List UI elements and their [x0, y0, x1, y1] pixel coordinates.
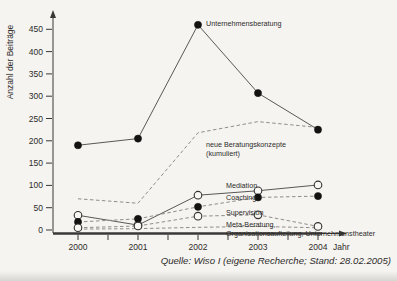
- y-axis-tick-label: 150: [29, 158, 43, 168]
- series-label-unternehmensberatung: Unternehmensberatung: [206, 19, 282, 28]
- series-label-meta-beratung-organisationsaufteilung-unternehmenstheater: Organisationsaufteilung, Unternehmensthe…: [226, 229, 376, 238]
- series-label-mediation: Mediation: [226, 181, 257, 190]
- x-axis-tick-label: 2000: [69, 242, 88, 252]
- data-point-coaching: [134, 215, 141, 222]
- y-axis-tick-label: 50: [34, 203, 44, 213]
- scanned-chart-page: 0501001502002503003504004502000200120022…: [0, 0, 397, 281]
- data-point-unternehmensberatung: [74, 142, 81, 149]
- data-point-unternehmensberatung: [254, 89, 261, 96]
- x-axis-tick-label: 2002: [189, 242, 208, 252]
- data-point-supervision: [134, 222, 142, 230]
- series-line-unternehmensberatung: [78, 25, 318, 145]
- data-point-coaching: [194, 203, 201, 210]
- source-caption: Quelle: Wiso I (eigene Recherche; Stand:…: [161, 255, 391, 266]
- y-axis-arrow: [50, 10, 56, 18]
- line-chart: 0501001502002503003504004502000200120022…: [0, 0, 397, 281]
- y-axis-tick-label: 200: [29, 136, 43, 146]
- data-point-unternehmensberatung: [194, 21, 201, 28]
- data-point-mediation: [314, 181, 322, 189]
- x-axis-tick-label: 2004: [309, 242, 328, 252]
- data-point-supervision: [74, 224, 82, 232]
- x-axis-tick-label: 2001: [129, 242, 148, 252]
- data-point-coaching: [314, 193, 321, 200]
- x-axis-title: Jahr: [333, 242, 350, 252]
- y-axis-tick-label: 300: [29, 91, 43, 101]
- series-label-supervision: Supervision: [226, 208, 264, 217]
- data-point-supervision: [194, 212, 202, 220]
- y-axis-tick-label: 400: [29, 47, 43, 57]
- y-axis-tick-label: 250: [29, 114, 43, 124]
- x-axis-tick-label: 2003: [249, 242, 268, 252]
- y-axis-title: Anzahl der Beiträge: [5, 24, 15, 99]
- y-axis-tick-label: 100: [29, 180, 43, 190]
- series-label-coaching: Coaching: [226, 193, 256, 202]
- data-point-unternehmensberatung: [134, 135, 141, 142]
- data-point-mediation: [74, 211, 82, 219]
- series-label-neue-beratungskonzepte-kumuliert: (kumuliert): [206, 149, 240, 158]
- chart-svg: 0501001502002503003504004502000200120022…: [0, 0, 397, 281]
- data-point-unternehmensberatung: [314, 126, 321, 133]
- y-axis-tick-label: 350: [29, 69, 43, 79]
- y-axis-tick-label: 0: [38, 225, 43, 235]
- data-point-mediation: [194, 191, 202, 199]
- y-axis-tick-label: 450: [29, 24, 43, 34]
